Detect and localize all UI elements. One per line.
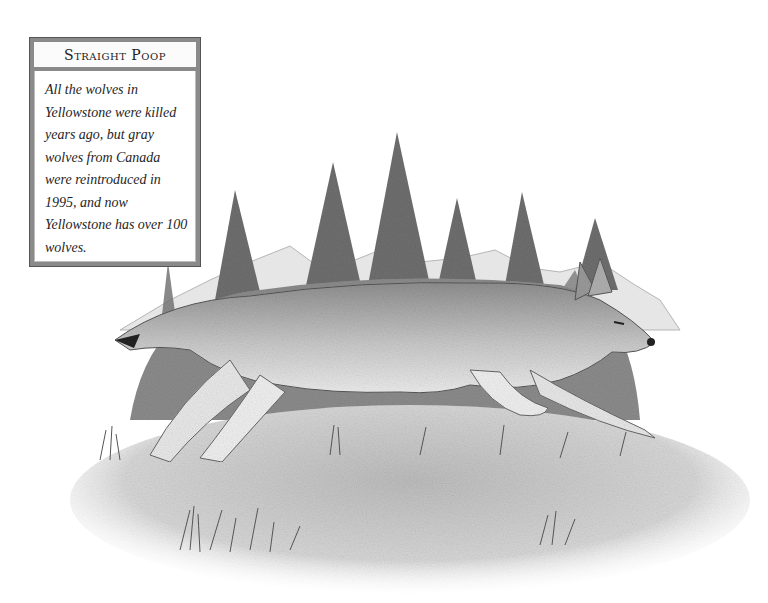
sidebar-header: Straight Poop <box>34 42 196 71</box>
sidebar-box: Straight Poop All the wolves in Yellowst… <box>30 38 200 266</box>
sidebar-title: Straight Poop <box>64 47 166 63</box>
sidebar-body-text: All the wolves in Yellowstone were kille… <box>34 71 196 259</box>
